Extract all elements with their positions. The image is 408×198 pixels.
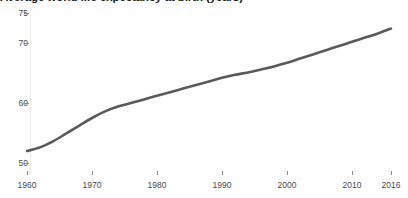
- life-expectancy-line-chart: Average world life expectancy at birth (…: [0, 0, 408, 198]
- plot-area: 50607075 1960197019801990200020102016: [0, 0, 408, 198]
- series-line-layer: [0, 0, 408, 198]
- series-line-world-life-expectancy: [27, 29, 391, 151]
